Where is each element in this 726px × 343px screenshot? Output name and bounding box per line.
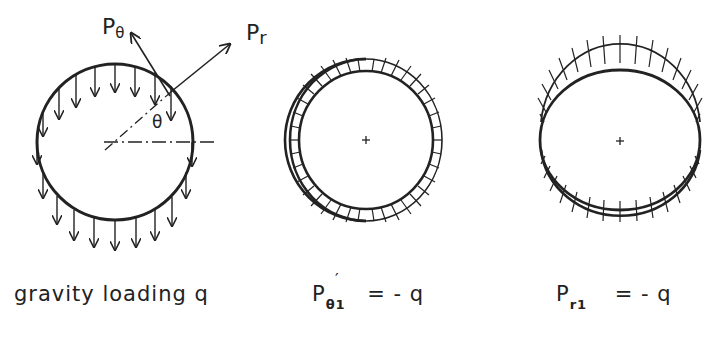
p-theta-main: P xyxy=(102,14,115,39)
caption-rhs: = - q xyxy=(615,282,672,306)
p-theta-arrow xyxy=(131,33,170,96)
caption-gravity-loading: gravity loading q xyxy=(14,282,209,306)
center-mark-icon xyxy=(616,137,624,145)
p-r-main: P xyxy=(246,20,259,45)
caption-main: P xyxy=(556,282,570,306)
p-r-arrow xyxy=(172,44,230,91)
hatching-right xyxy=(372,58,442,222)
caption-rhs: = - q xyxy=(367,282,424,306)
prime-mark: ′ xyxy=(335,270,340,289)
p-r-panel xyxy=(538,35,702,222)
p-theta-sub: θ xyxy=(115,24,124,42)
theta-angle-label: θ xyxy=(152,112,162,132)
hatching-top xyxy=(538,35,702,122)
caption-main: P xyxy=(312,282,326,306)
gravity-arrows-top xyxy=(37,64,192,166)
gravity-panel xyxy=(37,33,230,250)
hatching-left xyxy=(290,58,360,222)
p-theta-panel xyxy=(285,58,442,222)
p-r-label: Pr xyxy=(246,20,267,45)
p-r-sub: r xyxy=(259,27,266,48)
caption-p-theta-1: ′ Pθ1 = - q xyxy=(312,282,424,306)
p-theta-label: Pθ xyxy=(102,14,124,39)
center-mark-icon xyxy=(362,136,370,144)
caption-p-r-1: Pr1 = - q xyxy=(556,282,672,306)
gravity-arrows-bottom xyxy=(43,172,186,250)
caption-sub: θ1 xyxy=(326,297,346,312)
caption-sub: r1 xyxy=(570,297,587,312)
